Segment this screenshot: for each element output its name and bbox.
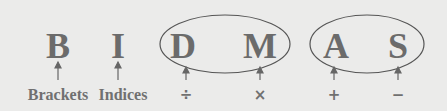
label-divide: ÷ <box>146 86 226 104</box>
letter-a: A <box>316 26 356 66</box>
arrow-up-icon <box>183 67 189 80</box>
bidmas-diagram: B I D M A S Brackets Indices ÷ × + − <box>0 0 447 111</box>
letter-m: M <box>240 26 280 66</box>
label-subtract: − <box>358 86 438 104</box>
letter-s: S <box>378 26 418 66</box>
letter-b: B <box>38 26 78 66</box>
letter-d: D <box>163 26 203 66</box>
label-multiply: × <box>220 86 300 104</box>
letter-i: I <box>98 26 138 66</box>
